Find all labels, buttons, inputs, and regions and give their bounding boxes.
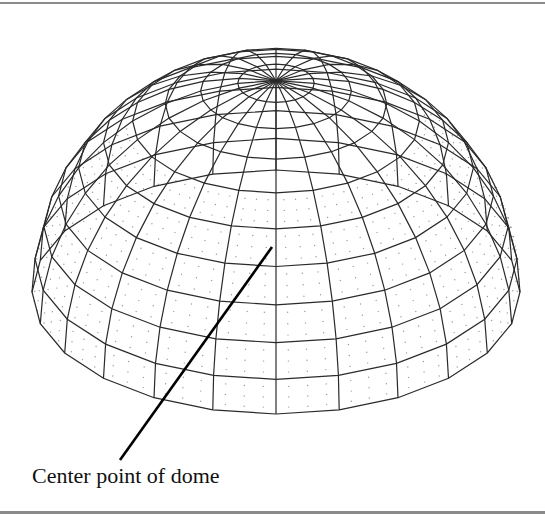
dome-wireframe: [0, 0, 545, 514]
dome-wire-lines: [32, 48, 520, 414]
leader-line: [120, 247, 272, 460]
caption-center-point-of-dome: Center point of dome: [32, 463, 220, 489]
